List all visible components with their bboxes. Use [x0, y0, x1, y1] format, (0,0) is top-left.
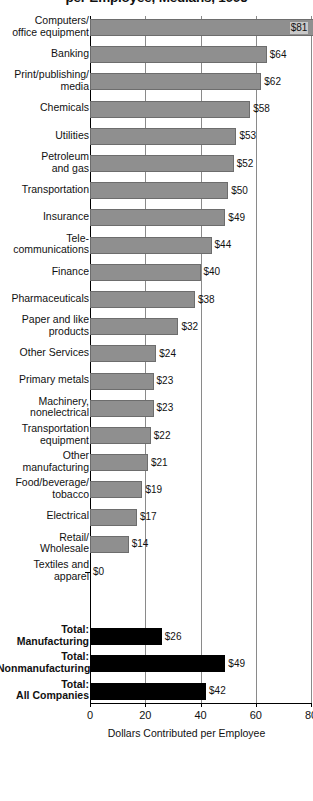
x-axis-title: Dollars Contributed per Employee	[0, 727, 313, 739]
x-tick	[90, 703, 91, 707]
bar-value-label: $17	[140, 511, 157, 523]
x-tick	[201, 703, 202, 707]
bar-value-label: $50	[231, 185, 248, 197]
bar-value-label: $14	[132, 538, 149, 550]
bar-value-label: $0	[93, 566, 104, 578]
bar-value-label: $24	[159, 348, 176, 360]
bar-value-label: $26	[165, 631, 182, 643]
bar-value-label: $22	[154, 430, 171, 442]
bar-value-label: $62	[264, 76, 281, 88]
bar-value-label: $32	[181, 321, 198, 333]
x-axis-title-text: Dollars Contributed per Employee	[48, 727, 266, 739]
bar-value-label: $44	[215, 239, 232, 251]
bar-value-label: $42	[209, 685, 226, 697]
x-axis: 020406080 Dollars Contributed per Employ…	[0, 703, 313, 748]
bar-value-label: $81	[290, 22, 309, 34]
x-tick-label: 60	[241, 709, 271, 721]
bar-value-label: $49	[228, 658, 245, 670]
x-tick-label: 0	[75, 709, 105, 721]
x-tick-label: 20	[130, 709, 160, 721]
bar-value-label: $40	[204, 266, 221, 278]
x-tick-label: 80	[296, 709, 313, 721]
bar-value-label: $64	[270, 49, 287, 61]
bar-value-label: $19	[145, 484, 162, 496]
x-tick	[311, 703, 312, 707]
bar-value-label: $58	[253, 103, 270, 115]
bar-value-label: $49	[228, 212, 245, 224]
value-labels-layer: $81$64$62$58$53$52$50$49$44$40$38$32$24$…	[0, 16, 313, 703]
bar-value-label: $38	[198, 294, 215, 306]
bar-value-label: $23	[157, 375, 174, 387]
bar-value-label: $52	[237, 158, 254, 170]
x-tick-label: 40	[186, 709, 216, 721]
x-tick	[256, 703, 257, 707]
bar-value-label: $53	[239, 130, 256, 142]
x-tick	[145, 703, 146, 707]
bar-value-label: $21	[151, 457, 168, 469]
bar-value-label: $23	[157, 402, 174, 414]
chart-title: per Employee, Medians, 1995	[0, 0, 313, 6]
chart-plot-area: Computers/ office equipmentBankingPrint/…	[0, 16, 313, 801]
